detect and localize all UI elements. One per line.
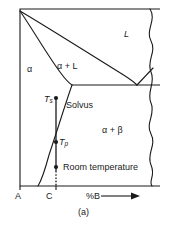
marker-tp: [54, 140, 58, 144]
region-label-liquid: L: [124, 30, 129, 39]
phase-diagram-figure: L α α + L α + β Solvus Room temperature …: [0, 0, 175, 225]
region-label-alpha-plus-beta: α + β: [102, 126, 123, 135]
figure-caption: (a): [78, 208, 89, 217]
region-label-alpha-plus-liquid: α + L: [57, 62, 77, 71]
solutionizing-temperature-label: Ts: [44, 95, 53, 105]
wavy-break-line: [149, 9, 153, 186]
x-axis-composition-label: C: [46, 192, 53, 201]
x-axis-origin-label: A: [15, 192, 21, 201]
liquidus-curve: [20, 11, 137, 85]
marker-room-temperature: [54, 165, 58, 169]
plot-frame: [20, 9, 160, 186]
room-temperature-label: Room temperature: [63, 163, 138, 172]
region-label-alpha: α: [27, 65, 32, 74]
marker-ts: [54, 96, 58, 100]
x-axis-label: %B: [86, 192, 100, 201]
ts-subscript: s: [50, 97, 53, 104]
solvus-label: Solvus: [66, 101, 93, 110]
tp-subscript: p: [65, 140, 69, 147]
x-axis-arrow-head: [131, 193, 140, 200]
precipitation-temperature-label: Tp: [59, 138, 68, 148]
